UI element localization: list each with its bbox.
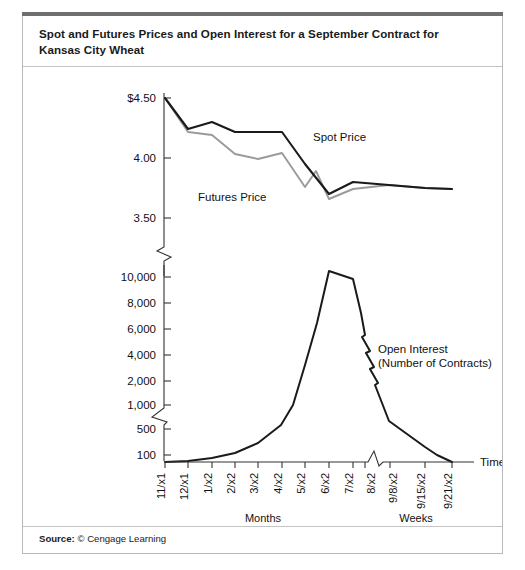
weeks-group-label: Weeks	[399, 512, 433, 524]
price-tick-350: 3.50	[134, 212, 156, 224]
page-title: Spot and Futures Prices and Open Interes…	[39, 26, 480, 57]
open-interest-sublabel: (Number of Contracts)	[378, 357, 492, 369]
xtick-4-x2: 4/x2	[272, 473, 284, 494]
oi-tick-500: 500	[137, 423, 156, 435]
xtick-9-8-x2: 9/8/x2	[387, 473, 399, 503]
months-group-label: Months	[245, 512, 282, 524]
source-label: Source:	[39, 533, 75, 544]
oi-tick-10000: 10,000	[121, 271, 156, 283]
source-value: © Cengage Learning	[77, 533, 166, 544]
open-interest-axis: 10,000 8,000 6,000 4,000 2,000 1,000 500…	[121, 265, 171, 461]
chart-svg: $4.50 4.00 3.50 Spot Price Futures Price	[23, 65, 502, 528]
price-series-group: Spot Price Futures Price	[165, 98, 452, 203]
xtick-2-x2: 2/x2	[225, 473, 237, 494]
figure-title-band: Spot and Futures Prices and Open Interes…	[23, 16, 502, 67]
time-axis-break	[364, 451, 389, 466]
oi-tick-2000: 2,000	[127, 375, 156, 387]
xtick-7-x2: 7/x2	[343, 473, 355, 494]
xtick-1-x2: 1/x2	[202, 473, 214, 494]
price-tick-400: 4.00	[134, 152, 156, 164]
oi-tick-100: 100	[137, 449, 156, 461]
xtick-8-x2: 8/x2	[365, 473, 377, 494]
open-interest-series-group: Open Interest (Number of Contracts)	[165, 271, 492, 462]
spot-price-line	[165, 98, 452, 194]
oi-tick-1000: 1,000	[127, 399, 156, 411]
x-group-labels: Months Weeks	[245, 512, 433, 524]
xtick-3-x2: 3/x2	[248, 473, 260, 494]
price-tick-450: $4.50	[127, 92, 156, 104]
oi-tick-4000: 4,000	[127, 349, 156, 361]
price-axis: $4.50 4.00 3.50	[127, 92, 171, 276]
price-axis-break	[157, 243, 171, 265]
xtick-11-x1: 11/x1	[155, 473, 167, 499]
time-axis: 11/x1 12/x1 1/x2 2/x2 3/x2 4/x2 5/x2 6/x…	[155, 451, 502, 509]
open-interest-label: Open Interest	[378, 343, 448, 355]
spot-price-label: Spot Price	[313, 131, 366, 143]
oi-tick-6000: 6,000	[127, 323, 156, 335]
source-band: Source: © Cengage Learning	[23, 526, 502, 553]
figure-card: Spot and Futures Prices and Open Interes…	[22, 12, 503, 554]
oi-tick-8000: 8,000	[127, 297, 156, 309]
futures-price-label: Futures Price	[198, 191, 266, 203]
xtick-5-x2: 5/x2	[295, 473, 307, 494]
xtick-9-21-x2: 9/21/x2	[442, 473, 454, 509]
xtick-9-15-x2: 9/15/x2	[415, 473, 427, 509]
time-axis-label: Time	[480, 456, 502, 468]
xtick-6-x2: 6/x2	[319, 473, 331, 494]
chart-plot-area: $4.50 4.00 3.50 Spot Price Futures Price	[23, 65, 502, 528]
futures-price-line	[165, 98, 452, 199]
xtick-12-x1: 12/x1	[178, 473, 190, 500]
